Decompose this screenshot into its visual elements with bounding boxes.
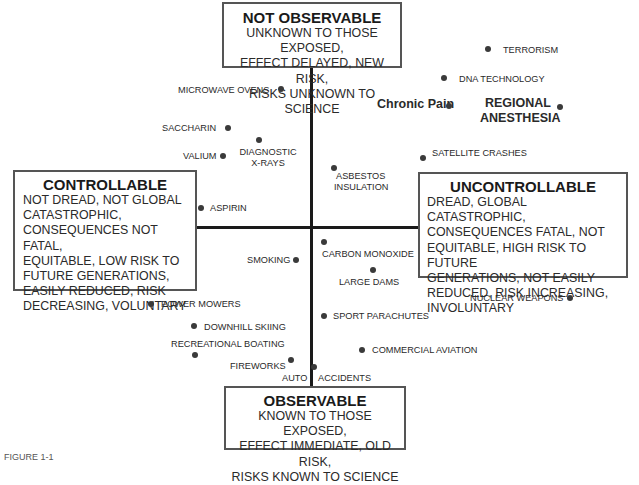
risk-label-terrorism: TERRORISM — [503, 45, 558, 56]
risk-point-nuclear-weapons — [567, 295, 573, 301]
risk-point-terrorism — [485, 46, 491, 52]
risk-point-smoking — [293, 257, 299, 263]
controllable-line: FUTURE GENERATIONS, — [23, 269, 195, 284]
risk-point-satellite-crashes — [420, 155, 426, 161]
controllable-box: CONTROLLABLE NOT DREAD, NOT GLOBAL CATAS… — [13, 170, 197, 291]
not-observable-line: UNKNOWN TO THOSE EXPOSED, — [224, 26, 400, 56]
risk-label-sport-parachutes: SPORT PARACHUTES — [333, 311, 429, 322]
risk-label-chronic-pain: Chronic Pain — [377, 97, 454, 112]
risk-point-downhill-skiing — [191, 323, 197, 329]
controllable-line: CONSEQUENCES NOT FATAL, — [23, 223, 195, 253]
observable-title: OBSERVABLE — [226, 392, 404, 409]
uncontrollable-title: UNCONTROLLABLE — [427, 178, 626, 195]
controllable-line: EQUITABLE, LOW RISK TO — [23, 254, 195, 269]
risk-label-downhill-skiing: DOWNHILL SKIING — [204, 322, 286, 333]
diagnostic-x-rays-line2: X-RAYS — [238, 158, 298, 169]
risk-label-satellite-crashes: SATELLITE CRASHES — [432, 148, 527, 159]
risk-label-accidents: ACCIDENTS — [318, 373, 371, 384]
risk-label-diagnostic-x-rays: DIAGNOSTIC X-RAYS — [238, 147, 298, 169]
controllable-line: EASILY REDUCED, RISK — [23, 284, 195, 299]
risk-label-saccharin: SACCHARIN — [162, 123, 216, 134]
controllable-line: CATASTROPHIC, — [23, 208, 195, 223]
risk-label-regional-anesthesia: REGIONAL ANESTHESIA — [480, 96, 556, 126]
risk-point-diagnostic-x-rays — [256, 137, 262, 143]
uncontrollable-line: DREAD, GLOBAL CATASTROPHIC, — [427, 195, 626, 225]
risk-label-auto: AUTO — [282, 373, 307, 384]
figure-caption: FIGURE 1-1 — [4, 452, 54, 462]
not-observable-box: NOT OBSERVABLE UNKNOWN TO THOSE EXPOSED,… — [222, 2, 402, 68]
uncontrollable-line: GENERATIONS, NOT EASILY — [427, 271, 626, 286]
risk-label-valium: VALIUM — [183, 151, 217, 162]
risk-point-power-mowers — [148, 301, 154, 307]
risk-point-auto-accidents — [311, 364, 317, 370]
risk-point-saccharin — [225, 125, 231, 131]
not-observable-title: NOT OBSERVABLE — [224, 9, 400, 26]
regional-anesthesia-line2: ANESTHESIA — [480, 111, 556, 126]
observable-line: RISKS KNOWN TO SCIENCE — [226, 470, 404, 485]
risk-point-valium — [220, 153, 226, 159]
risk-label-power-mowers: POWER MOWERS — [161, 299, 241, 310]
risk-label-dna-technology: DNA TECHNOLOGY — [459, 74, 545, 85]
risk-point-fireworks — [288, 357, 294, 363]
risk-point-large-dams — [370, 267, 376, 273]
uncontrollable-line: EQUITABLE, HIGH RISK TO FUTURE — [427, 241, 626, 271]
regional-anesthesia-line1: REGIONAL — [480, 96, 556, 111]
risk-label-commercial-aviation: COMMERCIAL AVIATION — [372, 345, 478, 356]
risk-label-fireworks: FIREWORKS — [230, 361, 286, 372]
risk-point-regional-anesthesia — [557, 104, 563, 110]
risk-point-carbon-monoxide — [321, 239, 327, 245]
asbestos-insulation-line1: ASBESTOS — [334, 171, 388, 182]
risk-label-asbestos-insulation: ASBESTOS INSULATION — [334, 171, 388, 193]
risk-point-commercial-aviation — [359, 347, 365, 353]
diagnostic-x-rays-line1: DIAGNOSTIC — [238, 147, 298, 158]
asbestos-insulation-line2: INSULATION — [334, 182, 388, 193]
risk-point-aspirin — [198, 205, 204, 211]
observable-line: EFFECT IMMEDIATE, OLD RISK, — [226, 439, 404, 469]
risk-point-microwave-ovens — [278, 86, 284, 92]
horizontal-axis-controllability — [196, 226, 420, 229]
risk-label-aspirin: ASPIRIN — [210, 203, 247, 214]
risk-label-carbon-monoxide: CARBON MONOXIDE — [322, 249, 414, 260]
risk-point-dna-technology — [441, 75, 447, 81]
not-observable-line: EFFECT DELAYED, NEW RISK, — [224, 56, 400, 86]
controllable-title: CONTROLLABLE — [23, 176, 195, 193]
uncontrollable-box: UNCONTROLLABLE DREAD, GLOBAL CATASTROPHI… — [418, 172, 628, 278]
controllable-line: NOT DREAD, NOT GLOBAL — [23, 193, 195, 208]
risk-label-smoking: SMOKING — [247, 255, 290, 266]
uncontrollable-line: CONSEQUENCES FATAL, NOT — [427, 225, 626, 240]
risk-label-recreational-boating: RECREATIONAL BOATING — [171, 339, 285, 350]
observable-box: OBSERVABLE KNOWN TO THOSE EXPOSED, EFFEC… — [224, 386, 406, 450]
risk-point-sport-parachutes — [321, 313, 327, 319]
risk-label-microwave-ovens: MICROWAVE OVENS — [178, 85, 269, 96]
risk-label-nuclear-weapons: NUCLEAR WEAPONS — [470, 293, 563, 304]
risk-point-recreational-boating — [192, 352, 198, 358]
observable-line: KNOWN TO THOSE EXPOSED, — [226, 409, 404, 439]
risk-point-chronic-pain — [446, 103, 452, 109]
risk-label-large-dams: LARGE DAMS — [339, 277, 399, 288]
